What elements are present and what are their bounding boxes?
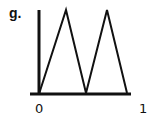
triangle-wave-diagram <box>0 0 149 128</box>
x-tick-label-0: 0 <box>35 102 43 115</box>
x-tick-label-1: 1 <box>139 102 147 115</box>
triangle-wave-line <box>39 10 127 94</box>
